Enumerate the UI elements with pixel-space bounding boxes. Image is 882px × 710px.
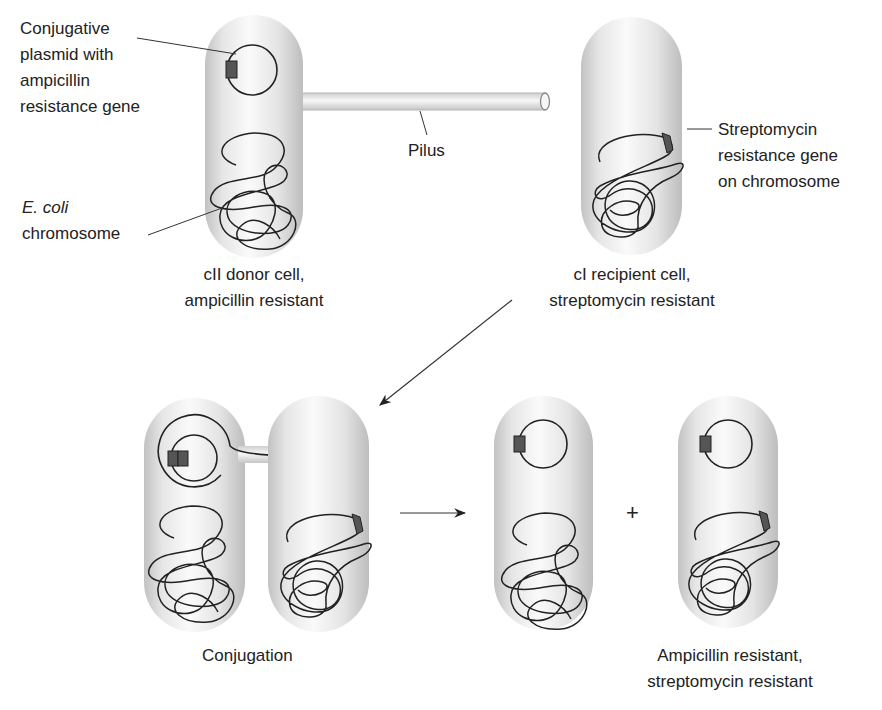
plus-sign: + xyxy=(626,500,639,526)
ampicillin-gene-icon xyxy=(168,451,178,466)
result-recipient-cell xyxy=(678,396,779,628)
conjugating-recipient-cell xyxy=(268,396,371,632)
pilus-leader-line xyxy=(420,111,427,135)
streptomycin-gene-label: Streptomycin resistance gene on chromoso… xyxy=(718,117,840,195)
plasmid-label: Conjugative plasmid with ampicillin resi… xyxy=(20,16,140,120)
ampicillin-gene-icon xyxy=(226,61,237,78)
recipient-caption: cI recipient cell, streptomycin resistan… xyxy=(532,262,732,314)
pilus-label: Pilus xyxy=(408,138,445,164)
result-caption: Ampicillin resistant, streptomycin resis… xyxy=(620,643,840,695)
ampicillin-gene-icon xyxy=(700,436,711,452)
donor-caption: cII donor cell, ampicillin resistant xyxy=(162,262,346,314)
conjugating-donor-cell xyxy=(144,398,284,632)
recipient-cell xyxy=(581,17,683,255)
pilus xyxy=(295,93,550,110)
chromosome-label: E. coli chromosome xyxy=(22,195,120,247)
result-donor-cell xyxy=(494,396,593,630)
conjugation-label: Conjugation xyxy=(202,643,293,669)
flow-arrow-diagonal xyxy=(380,300,512,405)
ampicillin-gene-icon xyxy=(514,436,525,452)
ampicillin-gene-copy-icon xyxy=(178,451,188,466)
